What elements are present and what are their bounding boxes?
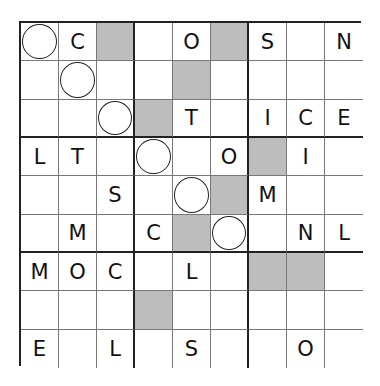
cell-letter: T: [71, 145, 84, 169]
grid-cell[interactable]: L: [173, 253, 211, 291]
grid-cell[interactable]: [97, 291, 135, 329]
grid-cell[interactable]: [325, 291, 363, 329]
grid-cell[interactable]: [287, 176, 325, 214]
grid-cell[interactable]: N: [287, 215, 325, 253]
shaded-cell[interactable]: [249, 138, 287, 176]
cell-letter: O: [69, 260, 86, 284]
cell-letter: N: [298, 221, 314, 245]
grid-cell[interactable]: [135, 253, 173, 291]
grid-cell[interactable]: [211, 330, 249, 368]
circled-cell[interactable]: [211, 215, 249, 253]
grid-cell[interactable]: S: [173, 330, 211, 368]
grid-cell[interactable]: I: [287, 138, 325, 176]
circle-icon: [136, 139, 171, 174]
puzzle-grid: COSNTICELTOISMMCNLMOCLELSO: [19, 21, 361, 366]
circled-cell[interactable]: [173, 176, 211, 214]
shaded-cell[interactable]: [97, 23, 135, 61]
cell-letter: C: [108, 260, 123, 284]
grid-cell[interactable]: C: [135, 215, 173, 253]
grid-cell[interactable]: [21, 100, 59, 138]
grid-cell[interactable]: E: [21, 330, 59, 368]
grid-cell[interactable]: [21, 215, 59, 253]
grid-cell[interactable]: [59, 330, 97, 368]
grid-cell[interactable]: O: [59, 253, 97, 291]
cell-letter: L: [186, 260, 198, 284]
circled-cell[interactable]: [97, 100, 135, 138]
grid-cell[interactable]: M: [59, 215, 97, 253]
grid-cell[interactable]: [135, 61, 173, 99]
grid-cell[interactable]: I: [249, 100, 287, 138]
grid-cell[interactable]: [59, 291, 97, 329]
grid-cell[interactable]: [21, 176, 59, 214]
cell-letter: C: [70, 30, 85, 54]
grid-cell[interactable]: O: [173, 23, 211, 61]
cell-letter: C: [146, 221, 161, 245]
grid-cell[interactable]: [325, 253, 363, 291]
grid-cell[interactable]: [173, 138, 211, 176]
grid-cell[interactable]: N: [325, 23, 363, 61]
shaded-cell[interactable]: [249, 253, 287, 291]
grid-cell[interactable]: [173, 291, 211, 329]
grid-cell[interactable]: [325, 330, 363, 368]
grid-cell[interactable]: C: [97, 253, 135, 291]
grid-cell[interactable]: L: [97, 330, 135, 368]
grid-cell[interactable]: [135, 176, 173, 214]
grid-cell[interactable]: M: [21, 253, 59, 291]
grid-cell[interactable]: [287, 23, 325, 61]
grid-cell[interactable]: T: [173, 100, 211, 138]
cell-letter: E: [33, 337, 46, 361]
shaded-cell[interactable]: [211, 176, 249, 214]
grid-cell[interactable]: [325, 176, 363, 214]
grid-cell[interactable]: [249, 215, 287, 253]
grid-cell[interactable]: [211, 253, 249, 291]
grid-cell[interactable]: [325, 61, 363, 99]
grid-cell[interactable]: [21, 61, 59, 99]
grid-cell[interactable]: O: [287, 330, 325, 368]
grid-cell[interactable]: [135, 23, 173, 61]
grid-cell[interactable]: L: [21, 138, 59, 176]
grid-cell[interactable]: [97, 215, 135, 253]
grid-cell[interactable]: [59, 176, 97, 214]
grid-cell[interactable]: S: [97, 176, 135, 214]
grid-cell[interactable]: [97, 61, 135, 99]
cell-letter: S: [108, 183, 121, 207]
grid-cell[interactable]: [21, 291, 59, 329]
cell-letter: M: [68, 221, 86, 245]
grid-cell[interactable]: [211, 291, 249, 329]
shaded-cell[interactable]: [135, 100, 173, 138]
grid-cell[interactable]: [211, 61, 249, 99]
shaded-cell[interactable]: [135, 291, 173, 329]
grid-cell[interactable]: [249, 61, 287, 99]
grid-cell[interactable]: [287, 291, 325, 329]
shaded-cell[interactable]: [287, 253, 325, 291]
grid-cell[interactable]: L: [325, 215, 363, 253]
grid-cell[interactable]: [287, 61, 325, 99]
cell-letter: O: [183, 30, 200, 54]
grid-cell[interactable]: C: [287, 100, 325, 138]
grid-cell[interactable]: M: [249, 176, 287, 214]
grid-cell[interactable]: S: [249, 23, 287, 61]
cell-letter: O: [221, 145, 238, 169]
grid-cell[interactable]: [59, 100, 97, 138]
grid-cell[interactable]: [135, 330, 173, 368]
grid-cell[interactable]: [249, 291, 287, 329]
grid-cell[interactable]: [325, 138, 363, 176]
grid-cell[interactable]: E: [325, 100, 363, 138]
grid-cell[interactable]: C: [59, 23, 97, 61]
grid-cell[interactable]: [211, 100, 249, 138]
cell-letter: M: [30, 260, 48, 284]
circle-icon: [60, 62, 95, 97]
grid-cell[interactable]: O: [211, 138, 249, 176]
cell-letter: L: [338, 221, 350, 245]
grid-cell[interactable]: T: [59, 138, 97, 176]
shaded-cell[interactable]: [211, 23, 249, 61]
shaded-cell[interactable]: [173, 61, 211, 99]
circled-cell[interactable]: [59, 61, 97, 99]
cell-letter: I: [302, 145, 308, 169]
grid-cell[interactable]: [249, 330, 287, 368]
grid-cell[interactable]: [97, 138, 135, 176]
shaded-cell[interactable]: [173, 215, 211, 253]
circled-cell[interactable]: [135, 138, 173, 176]
circled-cell[interactable]: [21, 23, 59, 61]
cell-letter: O: [297, 337, 314, 361]
